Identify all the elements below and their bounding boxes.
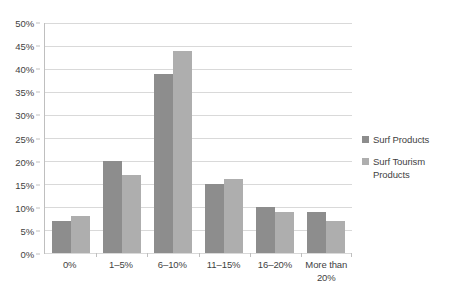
y-tick-label: 30% [15,110,34,121]
legend-swatch-icon [362,136,369,143]
legend-item[interactable]: Surf Tourism Products [362,155,450,181]
y-tick-label: 45% [15,41,34,52]
bar-group [147,23,198,253]
bar [52,221,71,253]
x-tick-mark [351,253,352,257]
bar-group [301,23,352,253]
y-tick-label: 50% [15,18,34,29]
bar [307,212,326,253]
x-tick-mark [301,253,302,257]
x-tick-mark [199,253,200,257]
bar-group [45,23,96,253]
y-tick-mark [36,92,40,93]
y-tick-label: 35% [15,87,34,98]
y-tick-mark [36,138,40,139]
x-axis: 0%1–5%6–10%11–15%16–20%More than 20% [44,258,352,284]
x-tick-mark [147,253,148,257]
y-tick-label: 40% [15,64,34,75]
legend-swatch-icon [362,158,369,165]
x-tick-label: 6–10% [147,258,198,284]
y-tick-label: 15% [15,179,34,190]
bar [256,207,275,253]
y-tick-label: 0% [20,249,34,260]
bar [326,221,345,253]
bar [71,216,90,253]
bar [275,212,294,253]
bar-group [199,23,250,253]
y-tick-mark [36,69,40,70]
bar-group [96,23,147,253]
x-tick-mark [96,253,97,257]
y-tick-mark [36,230,40,231]
bar [173,51,192,253]
bar-group [250,23,301,253]
y-tick-label: 5% [20,225,34,236]
y-tick-mark [36,207,40,208]
chart-legend: Surf ProductsSurf Tourism Products [362,133,450,190]
legend-label: Surf Tourism Products [373,155,450,181]
y-axis: 0%5%10%15%20%25%30%35%40%45%50% [0,23,40,254]
bar [154,74,173,253]
y-tick-mark [36,161,40,162]
bar [122,175,141,253]
bar [205,184,224,253]
legend-label: Surf Products [373,133,429,146]
y-tick-mark [36,184,40,185]
y-tick-mark [36,115,40,116]
x-tick-label: 1–5% [95,258,146,284]
y-tick-label: 25% [15,133,34,144]
x-tick-label: 16–20% [249,258,300,284]
x-tick-mark [250,253,251,257]
bar-chart: 0%5%10%15%20%25%30%35%40%45%50% 0%1–5%6–… [0,0,451,302]
bar [224,179,243,253]
y-tick-mark [36,254,40,255]
bars-layer [45,23,352,253]
bar [103,161,122,253]
y-tick-mark [36,23,40,24]
x-tick-label: More than 20% [301,258,352,284]
x-tick-label: 11–15% [198,258,249,284]
x-tick-label: 0% [44,258,95,284]
y-tick-label: 10% [15,202,34,213]
plot-area [44,23,352,254]
y-tick-label: 20% [15,156,34,167]
y-tick-mark [36,46,40,47]
legend-item[interactable]: Surf Products [362,133,450,146]
